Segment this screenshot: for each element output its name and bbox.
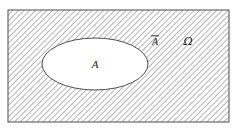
set-a-label: A	[91, 58, 99, 70]
complement-a-label: A	[151, 36, 159, 47]
set-diagram-svg: A A Ω	[0, 0, 237, 131]
figure-root: A A Ω	[0, 0, 237, 131]
complement-a-label-group: A	[151, 36, 159, 47]
omega-sample-space-label: Ω	[182, 35, 192, 48]
